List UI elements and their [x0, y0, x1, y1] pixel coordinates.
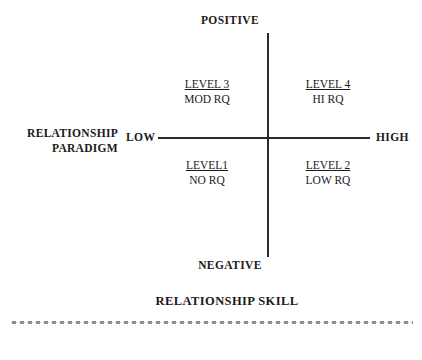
y-axis-title-line-1: RELATIONSHIP — [6, 126, 118, 141]
quadrant-level-1-title: LEVEL1 — [159, 158, 255, 173]
horizontal-axis-line — [158, 137, 370, 139]
y-axis-title: RELATIONSHIP PARADIGM — [6, 126, 118, 156]
vertical-axis-line — [267, 33, 269, 257]
relationship-matrix-figure: POSITIVE NEGATIVE LOW HIGH RELATIONSHIP … — [0, 0, 422, 360]
quadrant-level-4-rq: HI RQ — [280, 92, 376, 107]
quadrant-level-4-title: LEVEL 4 — [280, 77, 376, 92]
quadrant-level-1: LEVEL1 NO RQ — [159, 158, 255, 188]
axis-label-negative: NEGATIVE — [0, 259, 422, 271]
quadrant-level-1-rq: NO RQ — [159, 173, 255, 188]
axis-label-low: LOW — [126, 131, 155, 143]
y-axis-title-line-2: PARADIGM — [6, 141, 118, 156]
x-axis-title: RELATIONSHIP SKILL — [0, 294, 422, 309]
dotted-divider — [10, 320, 413, 325]
quadrant-level-3-rq: MOD RQ — [159, 92, 255, 107]
axis-label-high: HIGH — [376, 131, 409, 143]
axis-label-positive: POSITIVE — [0, 14, 422, 26]
quadrant-level-2-rq: LOW RQ — [280, 173, 376, 188]
quadrant-level-2-title: LEVEL 2 — [280, 158, 376, 173]
quadrant-level-3-title: LEVEL 3 — [159, 77, 255, 92]
quadrant-level-4: LEVEL 4 HI RQ — [280, 77, 376, 107]
quadrant-level-3: LEVEL 3 MOD RQ — [159, 77, 255, 107]
quadrant-level-2: LEVEL 2 LOW RQ — [280, 158, 376, 188]
